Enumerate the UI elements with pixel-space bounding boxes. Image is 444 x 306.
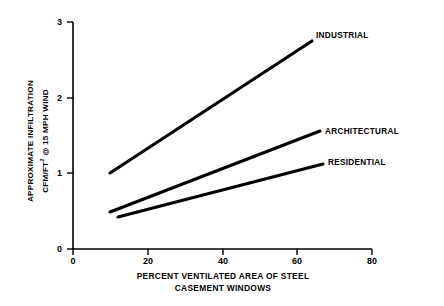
x-tick-label-0: 0 — [63, 256, 83, 266]
y-tick-label-0: 0 — [48, 244, 62, 254]
x-tick-label-80: 80 — [362, 256, 382, 266]
series-label-architectural: ARCHITECTURAL — [325, 127, 399, 136]
x-tick-label-40: 40 — [213, 256, 233, 266]
y-tick-label-3: 3 — [48, 17, 62, 27]
series-line-residential — [118, 164, 323, 217]
x-tick-label-20: 20 — [138, 256, 158, 266]
x-axis-title-line1: PERCENT VENTILATED AREA OF STEEL — [73, 271, 373, 283]
x-tick-label-60: 60 — [287, 256, 307, 266]
y-tick-label-2: 2 — [48, 93, 62, 103]
x-axis-title: PERCENT VENTILATED AREA OF STEEL CASEMEN… — [73, 271, 373, 294]
series-line-industrial — [110, 41, 312, 173]
series-label-industrial: INDUSTRIAL — [316, 31, 369, 40]
series-label-residential: RESIDENTIAL — [328, 158, 386, 167]
y-tick-label-1: 1 — [48, 168, 62, 178]
x-axis-title-line2: CASEMENT WINDOWS — [73, 283, 373, 295]
chart-figure: APPROXIMATE INFILTRATION CFM/FT2 @ 15 MP… — [0, 0, 444, 306]
